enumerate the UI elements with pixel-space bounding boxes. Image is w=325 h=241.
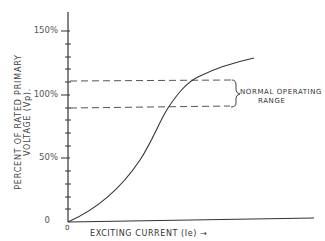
y-axis-label: PERCENT OF RATED PRIMARY VOLTAGE (Vp). <box>14 42 32 202</box>
magnetization-chart: PERCENT OF RATED PRIMARY VOLTAGE (Vp). 1… <box>0 0 325 241</box>
x-axis <box>68 218 314 222</box>
upper-range-line <box>70 80 232 81</box>
annotation-line2: RANGE <box>258 97 285 105</box>
y-major-ticks <box>61 31 70 158</box>
range-brace <box>231 80 240 107</box>
lower-range-line <box>70 106 230 108</box>
tick-label-0: 0 <box>20 215 50 225</box>
x-origin-label: 0 <box>65 224 70 232</box>
chart-canvas <box>0 0 325 241</box>
tick-label-150: 150% <box>28 25 58 35</box>
tick-label-50: 50% <box>28 152 58 162</box>
annotation-line1: NORMAL OPERATING <box>240 88 322 96</box>
x-axis-label: EXCITING CURRENT (Ie) → <box>90 229 207 238</box>
tick-label-100: 100% <box>28 89 58 99</box>
magnetization-curve <box>68 58 254 222</box>
